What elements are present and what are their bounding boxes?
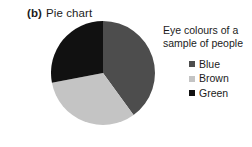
figure-label: (b) (27, 7, 42, 19)
legend-swatch-icon (189, 76, 195, 82)
chart-legend: Eye colours of a sample of people BlueBr… (163, 24, 252, 101)
pie-chart-graphic (51, 21, 155, 125)
legend-title: Eye colours of a sample of people (163, 24, 252, 50)
legend-item-label: Green (199, 88, 228, 99)
legend-item-blue: Blue (189, 57, 252, 72)
legend-swatch-icon (189, 90, 195, 96)
pie-slices (51, 21, 155, 125)
pie-slice-green (51, 21, 103, 83)
legend-item-green: Green (189, 86, 252, 101)
legend-swatch-icon (189, 61, 195, 67)
figure-title: Pie chart (46, 7, 92, 19)
figure-caption: (b)Pie chart (27, 7, 92, 19)
legend-title-line-2: sample of people (163, 37, 243, 49)
legend-item-brown: Brown (189, 72, 252, 87)
pie-svg (51, 21, 155, 125)
legend-item-label: Blue (199, 59, 220, 70)
legend-items: BlueBrownGreen (163, 57, 252, 101)
legend-title-line-1: Eye colours of a (163, 24, 238, 36)
pie-chart-figure: (b)Pie chart Eye colours of a sample of … (0, 0, 252, 147)
legend-item-label: Brown (199, 73, 229, 84)
